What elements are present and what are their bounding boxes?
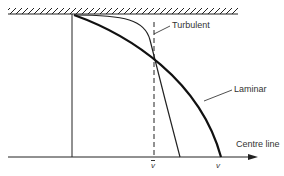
max-velocity-label: v bbox=[216, 161, 220, 170]
centre-line-label: Centre line bbox=[236, 139, 280, 149]
laminar-label: Laminar bbox=[234, 84, 267, 94]
turbulent-profile bbox=[74, 15, 180, 157]
turbulent-leader bbox=[154, 26, 170, 34]
mean-velocity-label: v bbox=[151, 161, 155, 170]
laminar-profile bbox=[74, 15, 221, 157]
pipe-wall-hatching bbox=[8, 8, 238, 14]
axis-arrow-icon bbox=[248, 154, 258, 160]
turbulent-label: Turbulent bbox=[172, 20, 210, 30]
laminar-leader bbox=[204, 90, 232, 101]
